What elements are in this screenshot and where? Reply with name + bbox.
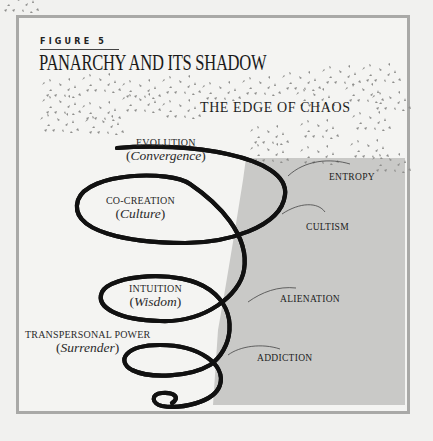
level-quality: (Wisdom) (129, 295, 182, 309)
shadow-cultism: CULTISM (306, 222, 349, 232)
shadow-alienation: ALIENATION (280, 294, 340, 304)
edge-of-chaos-title: THE EDGE OF CHAOS (200, 100, 351, 116)
level-co-creation: CO-CREATION (Culture) (106, 196, 175, 221)
level-quality: (Surrender) (25, 341, 150, 355)
level-intuition: INTUITION (Wisdom) (129, 284, 182, 309)
level-quality: (Convergence) (126, 149, 206, 163)
shadow-entropy: ENTROPY (329, 172, 375, 182)
level-evolution: EVOLUTION (Convergence) (126, 138, 206, 163)
spiral-diagram (0, 0, 433, 441)
level-transpersonal-power: TRANSPERSONAL POWER (Surrender) (25, 330, 150, 355)
shadow-addiction: ADDICTION (257, 353, 312, 363)
level-quality: (Culture) (106, 207, 175, 221)
